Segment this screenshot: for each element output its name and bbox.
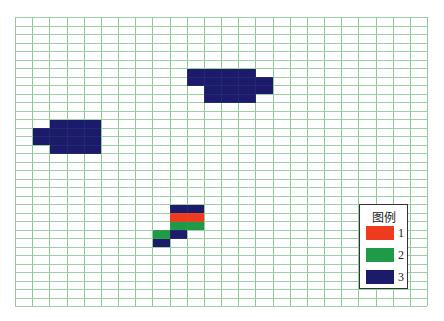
grid-line-horizontal	[15, 43, 427, 44]
legend-title: 图例	[360, 208, 407, 225]
legend-label-3: 3	[398, 270, 404, 285]
grid-line-horizontal	[15, 196, 427, 197]
legend: 图例 1 2 3	[359, 204, 408, 289]
grid-line-horizontal	[15, 298, 427, 299]
grid-line-horizontal	[15, 26, 427, 27]
map-cell-fill	[170, 222, 204, 231]
grid-line-horizontal	[15, 289, 427, 290]
grid-line-horizontal	[15, 162, 427, 163]
grid-line-horizontal	[15, 111, 427, 112]
map-cell-fill	[153, 230, 170, 239]
legend-swatch-1	[366, 226, 394, 240]
map-cell-fill	[170, 213, 204, 222]
legend-label-1: 1	[398, 226, 404, 241]
map-cell-fill	[256, 77, 273, 94]
map-cell-fill	[33, 128, 50, 145]
grid-line-horizontal	[15, 187, 427, 188]
grid-line-horizontal	[15, 306, 427, 307]
grid-line-horizontal	[15, 17, 427, 18]
legend-swatch-3	[366, 270, 394, 284]
map-cell-fill	[170, 230, 187, 239]
map-cell-fill	[153, 239, 170, 248]
grid-line-horizontal	[15, 170, 427, 171]
map-cell-fill	[187, 69, 256, 86]
legend-label-2: 2	[398, 248, 404, 263]
grid-line-vertical	[427, 17, 428, 306]
map-cell-fill	[50, 120, 102, 154]
grid-line-horizontal	[15, 60, 427, 61]
map-cell-fill	[170, 205, 204, 214]
grid-line-horizontal	[15, 34, 427, 35]
map-cell-fill	[204, 86, 256, 103]
grid-line-horizontal	[15, 51, 427, 52]
legend-swatch-2	[366, 248, 394, 262]
grid-line-horizontal	[15, 179, 427, 180]
